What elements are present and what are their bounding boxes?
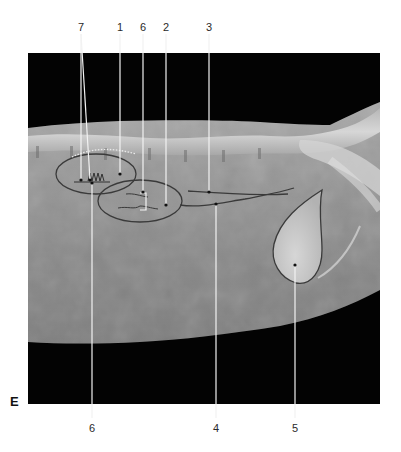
label-bottom-5: 5 xyxy=(292,423,298,434)
panel-letter: E xyxy=(10,394,19,409)
radiograph-figure xyxy=(0,0,401,452)
label-top-7: 7 xyxy=(78,22,84,33)
label-top-3: 3 xyxy=(206,22,212,33)
label-bottom-4: 4 xyxy=(213,423,219,434)
label-top-2: 2 xyxy=(163,22,169,33)
label-top-1: 1 xyxy=(117,22,123,33)
label-top-6: 6 xyxy=(140,22,146,33)
radiograph-svg xyxy=(0,0,401,452)
label-bottom-6: 6 xyxy=(89,423,95,434)
